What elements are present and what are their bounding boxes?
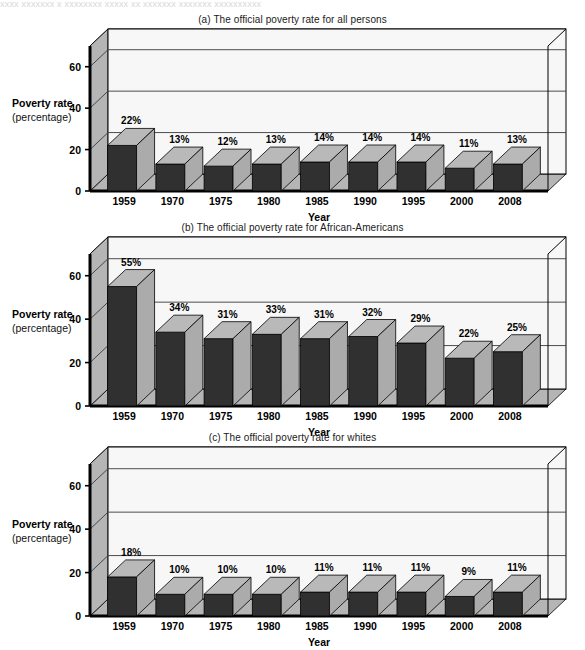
bar-value-label: 10%: [266, 564, 286, 575]
bar-value-label: 34%: [169, 302, 189, 313]
bar-chart-african-americans: 020406055%195934%197031%197533%198031%19…: [0, 232, 585, 444]
chart-panel-whites: (c) The official poverty rate for whites…: [0, 428, 585, 640]
bar-value-label: 11%: [459, 138, 479, 149]
bar-chart-all-persons: 020406022%195913%197012%197513%198014%19…: [0, 24, 585, 229]
x-axis-tick-label: 2000: [450, 620, 474, 632]
svg-text:60: 60: [69, 480, 81, 492]
bar-value-label: 14%: [314, 132, 334, 143]
bar-value-label: 14%: [410, 132, 430, 143]
x-axis-tick-label: 1959: [112, 195, 136, 207]
bar-chart-whites: 020406018%195910%197010%197510%198011%19…: [0, 442, 585, 650]
x-axis-tick-label: 1975: [209, 620, 233, 632]
x-axis-tick-label: 1985: [305, 410, 329, 422]
bar-value-label: 55%: [121, 257, 141, 268]
y-axis-subtitle: (percentage): [12, 322, 72, 334]
bar-value-label: 11%: [411, 562, 431, 573]
x-axis-tick-label: 1985: [305, 195, 329, 207]
cut-off-caption-text: xxxx xxxxxxx x xxxxxxxx xxxxx xx xxxxxxx…: [0, 0, 585, 9]
bar-value-label: 11%: [314, 562, 334, 573]
x-axis-tick-label: 1980: [257, 410, 281, 422]
chart-panel-african-americans: (b) The official poverty rate for Africa…: [0, 218, 585, 430]
y-axis-title: Poverty rate: [12, 518, 73, 530]
x-axis-tick-label: 1995: [402, 620, 426, 632]
bar-value-label: 22%: [121, 115, 141, 126]
bar-value-label: 33%: [266, 304, 286, 315]
x-axis-tick-label: 1990: [354, 195, 378, 207]
bar-value-label: 18%: [121, 547, 141, 558]
x-axis-tick-label: 1970: [161, 620, 185, 632]
chart-panel-all-persons: (a) The official poverty rate for all pe…: [0, 10, 585, 215]
x-axis-tick-label: 2008: [498, 620, 522, 632]
x-axis-tick-label: 1990: [354, 620, 378, 632]
bar-value-label: 31%: [314, 309, 334, 320]
x-axis-tick-label: 1995: [402, 410, 426, 422]
svg-text:20: 20: [69, 567, 81, 579]
svg-text:20: 20: [69, 357, 81, 369]
y-axis-subtitle: (percentage): [12, 532, 72, 544]
bar-value-label: 22%: [459, 328, 479, 339]
x-axis-title: Year: [308, 636, 330, 648]
svg-text:0: 0: [75, 610, 81, 622]
bar-value-label: 13%: [169, 134, 189, 145]
x-axis-tick-label: 1980: [257, 195, 281, 207]
x-axis-tick-label: 1970: [161, 195, 185, 207]
y-axis-title: Poverty rate: [12, 97, 73, 109]
x-axis-tick-label: 1995: [402, 195, 426, 207]
x-axis-tick-label: 1959: [112, 410, 136, 422]
x-axis-tick-label: 1970: [161, 410, 185, 422]
y-axis-subtitle: (percentage): [12, 111, 72, 123]
x-axis-tick-label: 2000: [450, 195, 474, 207]
bar-value-label: 25%: [507, 322, 527, 333]
x-axis-tick-label: 1990: [354, 410, 378, 422]
bar-value-label: 10%: [169, 564, 189, 575]
bar-value-label: 11%: [507, 562, 527, 573]
svg-text:0: 0: [75, 185, 81, 197]
x-axis-tick-label: 1959: [112, 620, 136, 632]
x-axis-tick-label: 1985: [305, 620, 329, 632]
x-axis-tick-label: 1975: [209, 410, 233, 422]
x-axis-tick-label: 2000: [450, 410, 474, 422]
bar-value-label: 32%: [362, 307, 382, 318]
bar-value-label: 13%: [266, 134, 286, 145]
x-axis-tick-label: 1980: [257, 620, 281, 632]
bar-value-label: 11%: [362, 562, 382, 573]
bar-value-label: 14%: [362, 132, 382, 143]
bar-value-label: 31%: [218, 309, 238, 320]
bar-value-label: 9%: [461, 566, 476, 577]
svg-text:60: 60: [69, 270, 81, 282]
y-axis-title: Poverty rate: [12, 308, 73, 320]
svg-text:20: 20: [69, 144, 81, 156]
svg-text:60: 60: [69, 61, 81, 73]
bar-value-label: 10%: [218, 564, 238, 575]
bar-value-label: 13%: [507, 134, 527, 145]
x-axis-tick-label: 1975: [209, 195, 233, 207]
svg-text:0: 0: [75, 400, 81, 412]
bar-value-label: 12%: [218, 136, 238, 147]
bar-value-label: 29%: [410, 313, 430, 324]
x-axis-tick-label: 2008: [498, 410, 522, 422]
x-axis-tick-label: 2008: [498, 195, 522, 207]
